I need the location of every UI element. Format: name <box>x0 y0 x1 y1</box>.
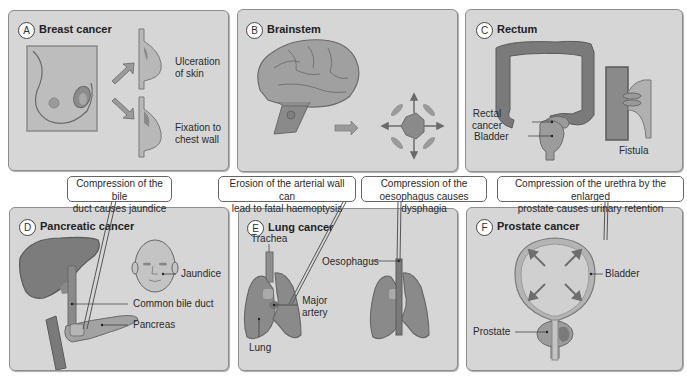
callout-bile-duct-jaundice: Compression of the bileduct causes jaund… <box>67 176 172 202</box>
callout-arterial-erosion: Erosion of the arterial wall canlead to … <box>218 176 356 202</box>
callout-oesophagus-dysphagia: Compression of theoesophagus causes dysp… <box>361 176 487 202</box>
callout-urethra-retention: Compression of the urethra by the enlarg… <box>497 176 684 202</box>
